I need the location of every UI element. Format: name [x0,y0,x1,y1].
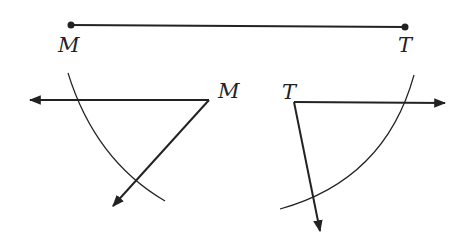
arc-left [68,73,165,201]
segment-mt: M T [57,22,414,58]
endpoint-t [402,24,409,31]
construction-diagram: M T M T [0,0,469,243]
endpoint-m [68,22,75,29]
right-angle-figure: T [280,75,445,231]
arc-right [280,75,414,209]
ray-right [294,102,445,103]
label-segment-t: T [398,33,414,57]
ray-down [294,102,320,231]
label-vertex-t: T [282,80,298,104]
left-angle-figure: M [30,73,240,206]
label-segment-m: M [57,33,80,57]
ray-down-left [113,100,209,206]
label-vertex-m: M [217,79,240,103]
